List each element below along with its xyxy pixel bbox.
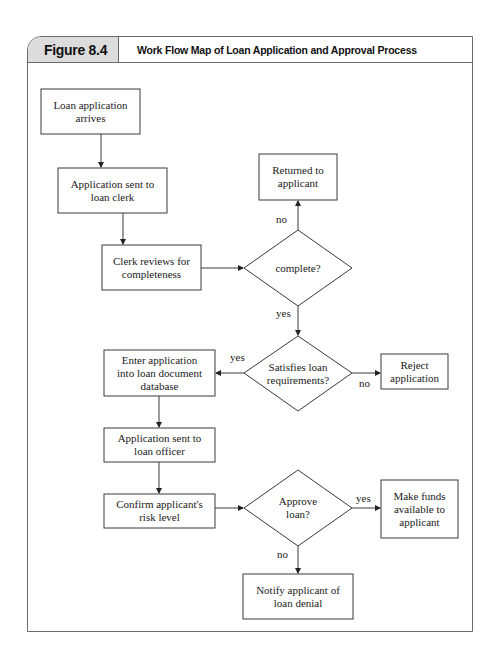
node-funds: Make funds available to applicant: [381, 480, 458, 538]
node-enter: Enter application into loan document dat…: [104, 350, 215, 396]
node-officer: Application sent to loan officer: [104, 428, 215, 462]
edge-label-complete-yes: yes: [276, 307, 291, 319]
node-clerk: Application sent to loan clerk: [58, 168, 167, 213]
edge-label-approve-no: no: [277, 548, 288, 560]
node-notify: Notify applicant of loan denial: [243, 574, 353, 619]
edge-label-approve-yes: yes: [356, 492, 371, 504]
node-approve: Approve loan?: [244, 470, 352, 546]
node-review: Clerk reviews for completeness: [102, 245, 201, 290]
edge-label-satisfies-yes: yes: [230, 351, 245, 363]
node-satisfies: Satisfies loan requirements?: [244, 336, 352, 411]
node-complete: complete?: [244, 230, 352, 306]
node-arrives: Loan application arrives: [41, 89, 140, 134]
node-returned: Returned to applicant: [259, 154, 337, 200]
node-reject: Reject application: [381, 354, 448, 389]
node-confirm: Confirm applicant's risk level: [104, 494, 215, 528]
edge-label-complete-no: no: [276, 213, 287, 225]
edge-label-satisfies-no: no: [359, 377, 370, 389]
